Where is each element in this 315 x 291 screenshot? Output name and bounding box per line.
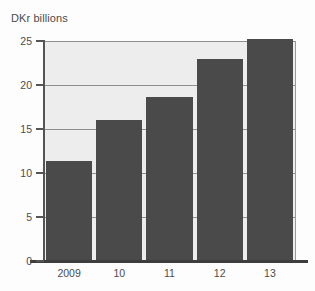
- y-axis-tick: [36, 128, 44, 130]
- y-axis-tick: [36, 172, 44, 174]
- y-axis-tick-label: 15: [20, 123, 32, 135]
- y-axis-tick-label: 25: [20, 35, 32, 47]
- x-axis-tick-label: 10: [113, 267, 125, 279]
- chart-title: DKr billions: [11, 12, 68, 24]
- bar-chart: DKr billions 0510152025 200910111213: [0, 0, 315, 291]
- y-axis-tick-label: 0: [26, 255, 32, 267]
- y-axis-tick-label: 10: [20, 167, 32, 179]
- plot-area: [44, 41, 296, 261]
- y-axis-tick: [36, 84, 44, 86]
- x-axis-tick-label: 2009: [57, 267, 80, 279]
- y-axis-tick: [36, 216, 44, 218]
- y-axis-tick: [36, 260, 44, 262]
- y-axis-tick-label: 20: [20, 79, 32, 91]
- x-axis-line: [30, 260, 308, 263]
- y-axis-tick: [36, 40, 44, 42]
- y-axis-tick-label: 5: [26, 211, 32, 223]
- x-axis-tick-label: 12: [214, 267, 226, 279]
- bar: [197, 59, 243, 261]
- bar: [46, 161, 92, 261]
- y-axis-line: [43, 40, 45, 262]
- bar: [146, 97, 192, 261]
- bar: [96, 120, 142, 261]
- bar: [247, 39, 293, 261]
- x-axis-tick-label: 11: [164, 267, 175, 279]
- x-axis-tick-label: 13: [264, 267, 276, 279]
